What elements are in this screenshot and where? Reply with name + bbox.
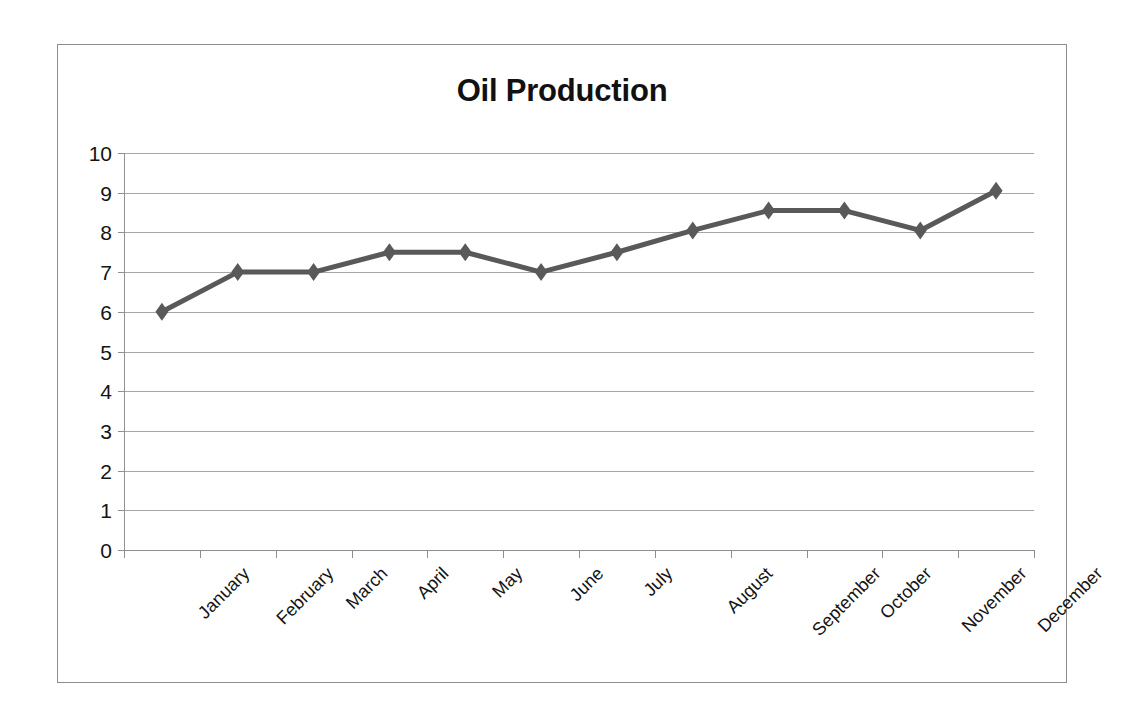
x-tick-mark [503,550,504,558]
x-tick-label: June [567,564,607,604]
x-tick-mark [1034,550,1035,558]
y-tick-label: 10 [89,143,112,164]
x-tick-mark [427,550,428,558]
line-series [124,153,1034,550]
x-tick-label: April [414,564,452,602]
x-tick-mark [882,550,883,558]
y-tick-label: 4 [100,381,112,402]
data-point-marker [990,182,1003,200]
x-tick-label: August [723,564,775,616]
data-point-marker [610,243,623,261]
data-point-marker [535,263,548,281]
plot-area: 109876543210 JanuaryFebruaryMarchAprilMa… [124,153,1034,550]
x-tick-label: January [195,564,253,622]
x-tick-label: November [959,564,1030,635]
data-point-marker [307,263,320,281]
x-tick-mark [124,550,125,558]
y-tick-label: 0 [100,540,112,561]
chart-frame: Oil Production 109876543210 JanuaryFebru… [57,44,1067,683]
x-tick-label: July [640,564,675,599]
x-tick-mark [200,550,201,558]
data-point-marker [231,263,244,281]
data-point-marker [155,303,168,321]
data-point-marker [686,221,699,239]
x-tick-mark [579,550,580,558]
series-line [162,191,996,312]
x-tick-mark [807,550,808,558]
y-tick-label: 9 [100,182,112,203]
y-tick-label: 8 [100,222,112,243]
x-tick-mark [958,550,959,558]
chart-title: Oil Production [58,73,1066,109]
y-tick-label: 5 [100,341,112,362]
x-axis-line [124,550,1034,551]
data-point-marker [838,202,851,220]
x-tick-label: March [342,564,390,612]
x-tick-label: December [1034,564,1105,635]
data-point-marker [459,243,472,261]
data-point-marker [762,202,775,220]
x-tick-mark [352,550,353,558]
y-tick-label: 1 [100,500,112,521]
x-tick-label: October [877,564,935,622]
data-point-marker [383,243,396,261]
y-tick-label: 2 [100,460,112,481]
y-tick-label: 6 [100,301,112,322]
x-tick-label: February [273,564,337,628]
y-tick-label: 7 [100,262,112,283]
x-tick-label: May [489,564,526,601]
x-tick-mark [655,550,656,558]
x-tick-mark [276,550,277,558]
x-tick-label: September [808,564,883,639]
x-tick-mark [731,550,732,558]
data-point-marker [914,221,927,239]
y-tick-label: 3 [100,420,112,441]
